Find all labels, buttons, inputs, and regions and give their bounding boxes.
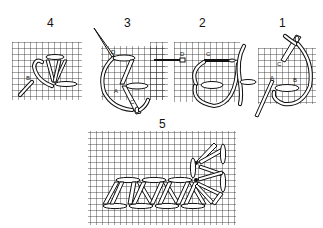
- step-3-label-a: A: [114, 88, 118, 94]
- step-3-number: 3: [124, 16, 131, 30]
- step-4-label-b: B: [26, 75, 30, 81]
- step-1-number: 1: [279, 16, 286, 30]
- step-4-number: 4: [47, 16, 54, 30]
- step-5-triangle-row: [103, 177, 206, 208]
- step-5-panel: 5: [88, 117, 236, 225]
- step-5-number: 5: [159, 117, 166, 131]
- step-1-label-a: A: [270, 75, 274, 81]
- step-4-stitch: [46, 55, 64, 60]
- step-3-label-c: C: [130, 99, 135, 105]
- step-2-number: 2: [199, 16, 206, 30]
- step-3-label-d: D: [111, 49, 116, 55]
- step-2-label-d: D: [180, 51, 185, 57]
- step-2-label-c: C: [206, 51, 211, 57]
- stitch-diagram: 4 B 3 D A C 2: [0, 0, 323, 228]
- step-1-label-b: B: [293, 77, 297, 83]
- step-1-label-c: C: [277, 61, 282, 67]
- step-2-panel: 2 D C: [150, 16, 240, 106]
- step-4-panel: 4 B: [12, 16, 82, 100]
- step-1-panel: 1 C A B: [239, 16, 316, 117]
